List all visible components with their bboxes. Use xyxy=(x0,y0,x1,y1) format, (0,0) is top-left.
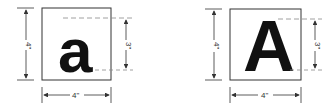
letter-size-diagram: a 4" 3" 4" A 4" 3" xyxy=(0,0,336,110)
letter-glyph: A xyxy=(243,6,295,86)
figure-lowercase-a: a 4" 3" 4" xyxy=(17,8,133,103)
letter-glyph: a xyxy=(58,16,93,85)
letter-height-label: 3" xyxy=(124,42,133,49)
figure-uppercase-a: A 4" 3" 4" xyxy=(205,6,322,103)
box-width-label: 4" xyxy=(72,91,79,100)
box-height-label: 4" xyxy=(24,42,33,49)
letter-height-label: 3" xyxy=(313,42,322,49)
box-height-label: 4" xyxy=(212,42,221,49)
box-width-label: 4" xyxy=(261,91,268,100)
